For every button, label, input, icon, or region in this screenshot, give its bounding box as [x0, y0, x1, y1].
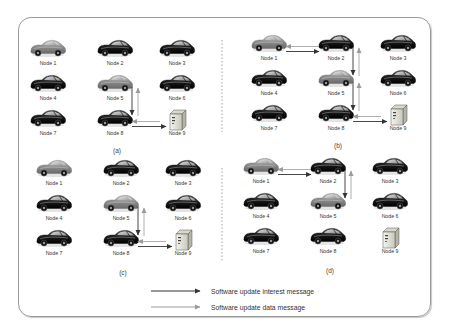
- node-label: Node 1: [46, 180, 63, 186]
- node-label: Node 9: [390, 125, 407, 131]
- vehicular-network-diagram: Node 1Node 2Node 3Node 4Node 5Node 6Node…: [0, 0, 452, 335]
- car-icon: [98, 40, 133, 57]
- car-icon: [381, 35, 416, 52]
- panel-label: (c): [119, 269, 127, 277]
- node-3: Node 3: [373, 158, 408, 184]
- legend-data-label: Software update data message: [211, 304, 305, 312]
- car-icon: [244, 228, 279, 245]
- car-icon: [98, 75, 133, 92]
- car-icon: [319, 70, 354, 87]
- message-arrows: [138, 207, 172, 247]
- node-label: Node 4: [261, 90, 278, 96]
- node-3: Node 3: [160, 40, 195, 66]
- node-2: Node 2: [311, 158, 346, 184]
- node-7: Node 7: [37, 230, 72, 256]
- node-label: Node 3: [382, 178, 399, 184]
- node-5: Node 5: [311, 193, 346, 219]
- car-icon: [31, 40, 66, 57]
- node-label: Node 6: [390, 90, 407, 96]
- node-label: Node 5: [107, 95, 124, 101]
- car-icon: [244, 158, 279, 175]
- car-icon: [311, 193, 346, 210]
- car-icon: [104, 195, 139, 212]
- node-label: Node 6: [175, 215, 192, 221]
- node-7: Node 7: [252, 105, 287, 131]
- node-label: Node 2: [328, 55, 345, 61]
- server-icon: [383, 228, 399, 248]
- car-icon: [98, 110, 133, 127]
- node-label: Node 6: [169, 95, 186, 101]
- car-icon: [37, 195, 72, 212]
- node-label: Node 8: [113, 250, 130, 256]
- car-icon: [252, 105, 287, 122]
- node-label: Node 3: [169, 60, 186, 66]
- node-label: Node 2: [107, 60, 124, 66]
- legend-item-interest: Software update interest message: [151, 288, 314, 296]
- node-label: Node 3: [175, 180, 192, 186]
- node-2: Node 2: [104, 160, 139, 186]
- car-icon: [37, 230, 72, 247]
- message-arrows: [132, 87, 166, 127]
- node-7: Node 7: [31, 110, 66, 136]
- legend-interest-label: Software update interest message: [211, 288, 314, 296]
- node-3: Node 3: [381, 35, 416, 61]
- node-label: Node 4: [253, 213, 270, 219]
- car-icon: [319, 105, 354, 122]
- node-8: Node 8: [311, 228, 346, 254]
- node-5: Node 5: [319, 70, 354, 96]
- node-2: Node 2: [319, 35, 354, 61]
- node-9: Node 9: [390, 105, 407, 131]
- car-icon: [244, 193, 279, 210]
- node-label: Node 5: [328, 90, 345, 96]
- node-8: Node 8: [319, 105, 354, 131]
- node-label: Node 9: [169, 130, 186, 136]
- node-1: Node 1: [31, 40, 66, 66]
- car-icon: [252, 35, 287, 52]
- node-4: Node 4: [252, 70, 287, 96]
- node-label: Node 5: [320, 213, 337, 219]
- panel-c: Node 1Node 2Node 3Node 4Node 5Node 6Node…: [37, 160, 201, 277]
- node-6: Node 6: [381, 70, 416, 96]
- node-4: Node 4: [37, 195, 72, 221]
- node-1: Node 1: [37, 160, 72, 186]
- car-icon: [37, 160, 72, 177]
- car-icon: [373, 193, 408, 210]
- car-icon: [104, 160, 139, 177]
- panel-a: Node 1Node 2Node 3Node 4Node 5Node 6Node…: [31, 40, 195, 155]
- node-3: Node 3: [166, 160, 201, 186]
- node-8: Node 8: [104, 230, 139, 256]
- panel-label: (a): [113, 147, 121, 155]
- car-icon: [104, 230, 139, 247]
- node-9: Node 9: [382, 228, 399, 254]
- panel-label: (b): [334, 142, 342, 150]
- panel-label: (d): [326, 267, 334, 275]
- node-label: Node 9: [382, 248, 399, 254]
- node-6: Node 6: [160, 75, 195, 101]
- node-label: Node 7: [261, 125, 278, 131]
- node-label: Node 7: [40, 130, 57, 136]
- car-icon: [166, 160, 201, 177]
- legend-item-data: Software update data message: [151, 304, 305, 312]
- node-label: Node 3: [390, 55, 407, 61]
- car-icon: [311, 158, 346, 175]
- node-label: Node 8: [107, 130, 124, 136]
- car-icon: [319, 35, 354, 52]
- node-label: Node 5: [113, 215, 130, 221]
- panel-d: Node 1Node 2Node 3Node 4Node 5Node 6Node…: [244, 158, 408, 275]
- node-label: Node 9: [175, 250, 192, 256]
- node-8: Node 8: [98, 110, 133, 136]
- server-icon: [176, 230, 192, 250]
- node-5: Node 5: [98, 75, 133, 101]
- node-label: Node 7: [253, 248, 270, 254]
- node-label: Node 4: [46, 215, 63, 221]
- node-label: Node 7: [46, 250, 63, 256]
- node-label: Node 2: [320, 178, 337, 184]
- node-1: Node 1: [244, 158, 279, 184]
- node-2: Node 2: [98, 40, 133, 66]
- node-1: Node 1: [252, 35, 287, 61]
- server-icon: [391, 105, 407, 125]
- node-9: Node 9: [175, 230, 192, 256]
- node-label: Node 1: [261, 55, 278, 61]
- node-label: Node 6: [382, 213, 399, 219]
- car-icon: [373, 158, 408, 175]
